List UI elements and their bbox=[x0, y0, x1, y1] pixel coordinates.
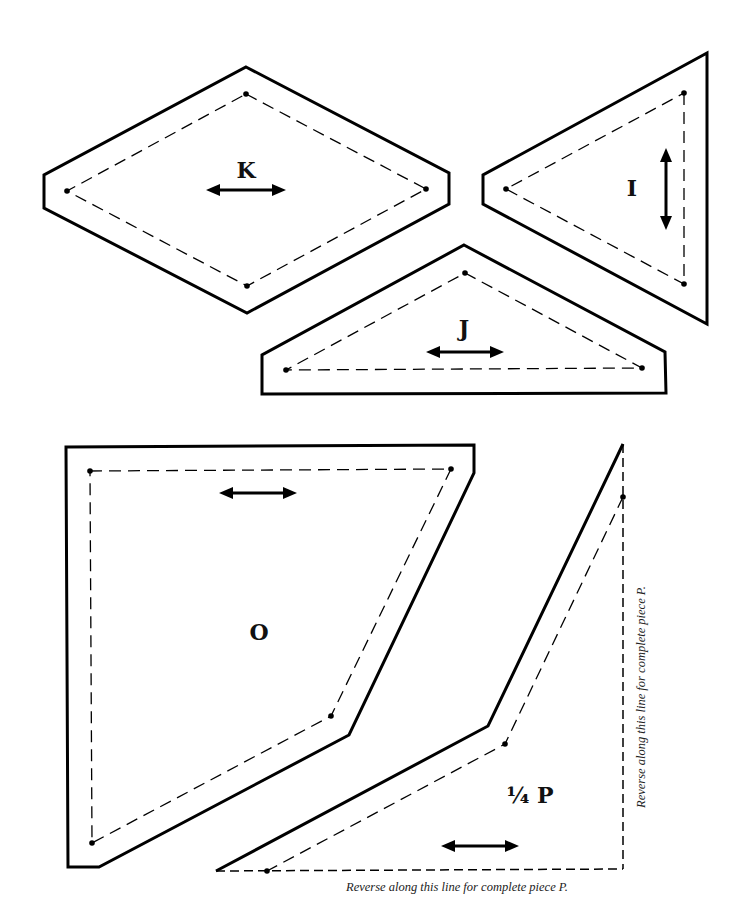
piece-o-corner-dots bbox=[87, 466, 454, 846]
piece-i-corner-dots bbox=[503, 90, 687, 287]
piece-i-label: I bbox=[627, 175, 637, 201]
piece-i-cutting-line bbox=[483, 53, 707, 324]
piece-o-label: O bbox=[249, 619, 268, 645]
piece-p-fold-line-bottom bbox=[216, 869, 623, 871]
fold-note-bottom: Reverse along this line for complete pie… bbox=[345, 880, 568, 894]
piece-o-grainline-arrow-icon bbox=[219, 487, 297, 499]
piece-i-seam-line bbox=[506, 93, 684, 284]
piece-k-label: K bbox=[236, 157, 256, 183]
piece-p-grainline-arrow-icon bbox=[441, 840, 519, 852]
piece-o-cutting-line bbox=[66, 445, 474, 867]
piece-p-cutting-line bbox=[216, 444, 623, 871]
piece-j-grainline-arrow-icon bbox=[426, 346, 504, 358]
piece-k-grainline-arrow-icon bbox=[206, 184, 286, 196]
piece-j-label: J bbox=[457, 315, 469, 341]
quilt-template-sheet: K I J bbox=[0, 0, 743, 911]
piece-i: I bbox=[483, 53, 707, 324]
piece-j: J bbox=[262, 245, 666, 394]
piece-p-quarter: ¼ P Reverse along this line for complete… bbox=[216, 444, 648, 894]
piece-o-seam-line bbox=[90, 469, 451, 843]
piece-o: O bbox=[66, 445, 474, 867]
piece-k: K bbox=[44, 67, 449, 313]
piece-i-grainline-arrow-icon bbox=[660, 148, 672, 230]
piece-p-label: ¼ P bbox=[506, 782, 553, 808]
fold-note-vertical: Reverse along this line for complete pie… bbox=[634, 586, 648, 809]
